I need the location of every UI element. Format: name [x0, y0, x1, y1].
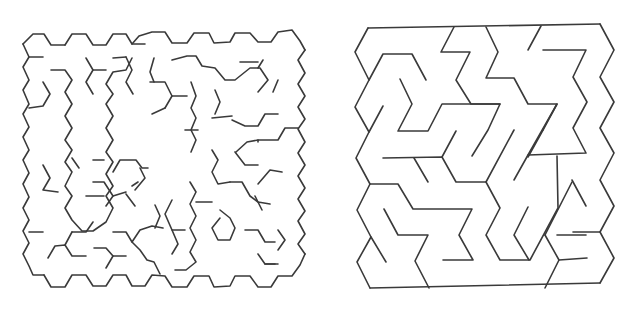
maze-wall — [383, 130, 514, 182]
maze-wall — [441, 27, 500, 156]
maze-wall — [559, 258, 587, 260]
maze-wall — [545, 182, 572, 235]
maze-wall — [514, 207, 529, 260]
maze-wall — [414, 158, 428, 182]
maze-wall — [371, 237, 386, 262]
maze-wall — [355, 28, 371, 288]
maze-wall — [528, 104, 557, 155]
maze-wall — [369, 106, 383, 132]
maze-wall — [442, 131, 456, 157]
maze-wall — [398, 79, 500, 131]
hexagonal-maze-right — [0, 0, 633, 313]
maze-wall — [545, 235, 559, 288]
maze-figure — [0, 0, 633, 313]
maze-wall — [368, 24, 600, 28]
maze-wall — [486, 156, 558, 260]
maze-wall — [486, 27, 557, 130]
maze-wall — [600, 24, 614, 283]
maze-wall — [572, 180, 586, 206]
maze-wall — [369, 54, 426, 80]
maze-wall — [370, 283, 600, 288]
maze-wall — [384, 209, 429, 288]
maze-wall — [528, 26, 541, 50]
